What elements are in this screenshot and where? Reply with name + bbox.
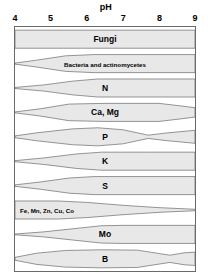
band-s: S	[15, 177, 195, 195]
tick-label-7: 7	[121, 14, 126, 23]
band-label: Ca, Mg	[91, 107, 119, 117]
band-bacteria-and-actinomycetes: Bacteria and actinomycetes	[15, 55, 195, 73]
band-ca-mg: Ca, Mg	[15, 103, 195, 121]
axis-title: pH	[100, 3, 112, 12]
band-fungi: Fungi	[15, 30, 195, 48]
tick-label-5: 5	[48, 14, 53, 23]
nutrient-bands: FungiBacteria and actinomycetesNCa, MgPK…	[15, 27, 195, 271]
tick-label-8: 8	[157, 14, 162, 23]
tick-label-4: 4	[12, 14, 17, 23]
tick-label-9: 9	[192, 14, 197, 23]
band-label: P	[102, 132, 108, 142]
tick-label-6: 6	[84, 14, 89, 23]
band-label: B	[102, 254, 108, 264]
band-label: Fungi	[93, 34, 116, 44]
band-k: K	[15, 152, 195, 170]
band-label: N	[102, 83, 108, 93]
band-p: P	[15, 128, 195, 146]
plot-area: FungiBacteria and actinomycetesNCa, MgPK…	[14, 26, 196, 272]
ph-availability-chart: pH 456789 FungiBacteria and actinomycete…	[0, 0, 208, 278]
band-label: S	[102, 181, 108, 191]
band-label: K	[102, 156, 109, 166]
band-fe-mn-zn-cu-co: Fe, Mn, Zn, Cu, Co	[15, 201, 195, 219]
band-label: Fe, Mn, Zn, Cu, Co	[20, 207, 74, 214]
band-n: N	[15, 79, 195, 97]
band-label: Mo	[99, 229, 111, 239]
ph-axis: pH 456789	[0, 0, 208, 26]
band-b: B	[15, 250, 195, 268]
band-mo: Mo	[15, 225, 195, 243]
band-label: Bacteria and actinomycetes	[64, 61, 146, 68]
